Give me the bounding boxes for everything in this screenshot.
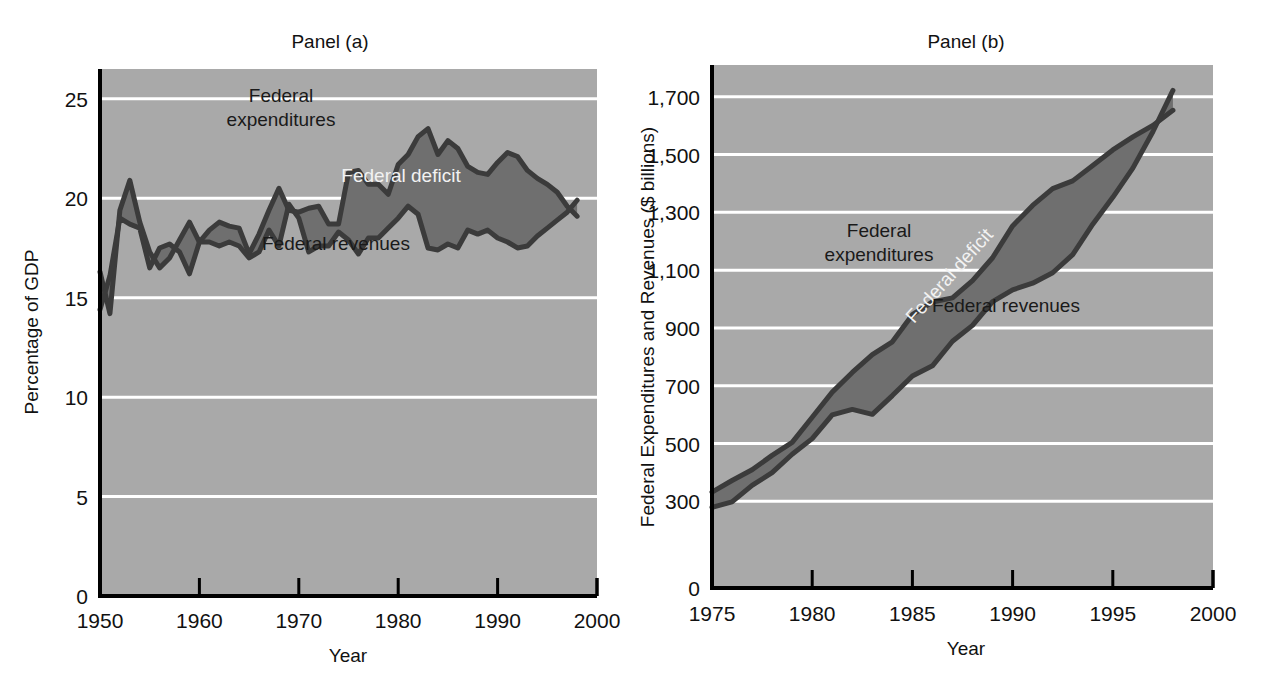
panel-a: Panel (a) 195019601970198019902000 05101…	[0, 0, 635, 679]
annotation-federal-deficit: Federal deficit	[341, 165, 461, 186]
panel-a-y-axis-label: Percentage of GDP	[21, 250, 42, 415]
x-tick-label-1980: 1980	[375, 609, 422, 632]
y-tick-label-0: 0	[76, 585, 88, 608]
x-tick-label-1950: 1950	[77, 609, 124, 632]
figure-root: Panel (a) 195019601970198019902000 05101…	[0, 0, 1271, 679]
x-tick-label-2000: 2000	[574, 609, 621, 632]
y-tick-label-15: 15	[65, 287, 88, 310]
panel-a-chart: Panel (a) 195019601970198019902000 05101…	[0, 0, 635, 679]
x-tick-label-2000: 2000	[1190, 602, 1237, 625]
annotation-federal-revenues: Federal revenues	[262, 233, 410, 254]
panel-a-title: Panel (a)	[291, 31, 368, 52]
y-tick-label-0: 0	[688, 577, 700, 600]
y-tick-label-10: 10	[65, 386, 88, 409]
y-tick-label-700: 700	[665, 375, 700, 398]
y-tick-label-300: 300	[665, 490, 700, 513]
x-tick-label-1990: 1990	[989, 602, 1036, 625]
x-tick-label-1980: 1980	[789, 602, 836, 625]
x-tick-label-1995: 1995	[1089, 602, 1136, 625]
panel-b-x-tick-labels: 197519801985199019952000	[689, 602, 1237, 625]
y-tick-label-20: 20	[65, 187, 88, 210]
panel-b-x-axis-label: Year	[947, 638, 986, 659]
y-tick-label-5: 5	[76, 486, 88, 509]
annotation-federal-revenues: Federal revenues	[932, 295, 1080, 316]
panel-b-title: Panel (b)	[927, 31, 1004, 52]
x-tick-label-1970: 1970	[275, 609, 322, 632]
y-tick-label-25: 25	[65, 88, 88, 111]
panel-b-chart: Panel (b) 197519801985199019952000 03005…	[636, 0, 1271, 679]
x-tick-label-1960: 1960	[176, 609, 223, 632]
panel-b-y-axis-label: Federal Expenditures and Revenues ($ bil…	[637, 127, 658, 527]
x-tick-label-1975: 1975	[689, 602, 736, 625]
y-tick-label-1700: 1,700	[647, 86, 700, 109]
panel-a-y-tick-labels: 0510152025	[65, 88, 88, 608]
y-tick-label-900: 900	[665, 317, 700, 340]
panel-a-x-tick-labels: 195019601970198019902000	[77, 609, 621, 632]
panel-a-plot-background	[100, 69, 597, 596]
panel-b: Panel (b) 197519801985199019952000 03005…	[636, 0, 1271, 679]
y-tick-label-500: 500	[665, 433, 700, 456]
panel-a-x-axis-label: Year	[329, 645, 368, 666]
x-tick-label-1990: 1990	[474, 609, 521, 632]
x-tick-label-1985: 1985	[889, 602, 936, 625]
